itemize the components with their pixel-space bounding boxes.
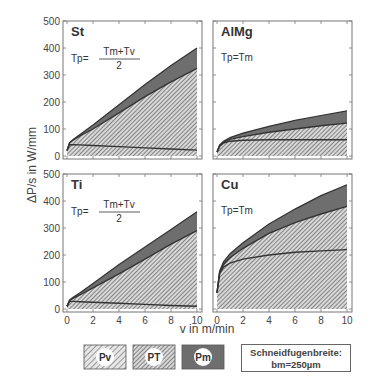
x-tick-label: 8 <box>168 315 174 326</box>
panel-title: AlMg <box>221 24 253 39</box>
y-tick-label: 100 <box>43 277 60 288</box>
y-tick-label: 500 <box>43 169 60 180</box>
legend-label-pm: Pm <box>195 352 211 363</box>
y-tick-label: 400 <box>43 43 60 54</box>
panel-title: Cu <box>221 177 238 192</box>
note-line2: bm=250µm <box>242 359 350 371</box>
y-tick-label: 0 <box>54 304 60 315</box>
legend: Pv PT Pm <box>84 345 224 369</box>
legend-item-pm: Pm <box>182 345 224 369</box>
formula-numerator: Tm+Tv <box>103 46 134 57</box>
formula-lhs: Tp= <box>71 206 89 217</box>
panel-almg: AlMgTp=Tm <box>213 21 352 159</box>
y-tick-label: 400 <box>43 196 60 207</box>
y-tick-label: 200 <box>43 250 60 261</box>
y-tick-label: 200 <box>43 97 60 108</box>
x-tick-label: 2 <box>90 315 96 326</box>
note-line1: Schneidfugenbreite: <box>242 347 350 359</box>
x-axis-label: v in m/min <box>180 322 235 336</box>
panel-title: Ti <box>71 177 82 192</box>
figure: 0100200300400500StTp=Tm+Tv2AlMgTp=Tm0100… <box>0 0 374 390</box>
formula-denominator: 2 <box>116 213 122 224</box>
chart-panels: 0100200300400500StTp=Tm+Tv2AlMgTp=Tm0100… <box>43 16 353 327</box>
x-tick-label: 0 <box>64 315 70 326</box>
x-tick-label: 4 <box>116 315 122 326</box>
x-tick-label: 4 <box>266 315 272 326</box>
formula-numerator: Tm+Tv <box>103 199 134 210</box>
x-tick-label: 10 <box>341 315 353 326</box>
legend-label-pv: Pv <box>99 352 112 363</box>
formula-denominator: 2 <box>116 60 122 71</box>
x-tick-label: 8 <box>318 315 324 326</box>
panel-title: St <box>71 24 85 39</box>
legend-item-pv: Pv <box>84 345 126 369</box>
x-tick-label: 2 <box>240 315 246 326</box>
legend-label-pt: PT <box>148 352 161 363</box>
formula: Tp=Tm <box>221 205 253 216</box>
y-tick-label: 300 <box>43 70 60 81</box>
y-tick-label: 300 <box>43 223 60 234</box>
formula: Tp=Tm <box>221 52 253 63</box>
x-tick-label: 6 <box>292 315 298 326</box>
legend-item-pt: PT <box>133 345 175 369</box>
x-tick-label: 6 <box>142 315 148 326</box>
formula-lhs: Tp= <box>71 53 89 64</box>
panel-st: 0100200300400500StTp=Tm+Tv2 <box>43 16 202 162</box>
y-tick-label: 100 <box>43 124 60 135</box>
panel-ti: 01002003004005000246810TiTp=Tm+Tv2 <box>43 169 203 327</box>
y-axis-label: ΔP/s in W/mm <box>25 127 39 203</box>
panel-cu: 0246810CuTp=Tm <box>213 174 353 326</box>
kerf-width-note: Schneidfugenbreite: bm=250µm <box>241 344 351 372</box>
y-tick-label: 0 <box>54 151 60 162</box>
y-tick-label: 500 <box>43 16 60 27</box>
